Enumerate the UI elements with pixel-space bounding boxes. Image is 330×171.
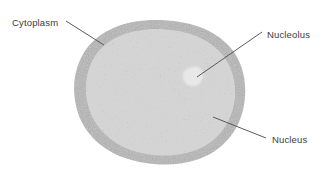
label-nucleus: Nucleus [272,134,307,145]
cell-diagram-figure: Cytoplasm Nucleolus Nucleus [0,0,330,171]
label-nucleolus: Nucleolus [267,29,310,40]
cytoplasm-leader-line [66,21,104,45]
label-cytoplasm: Cytoplasm [12,17,58,28]
